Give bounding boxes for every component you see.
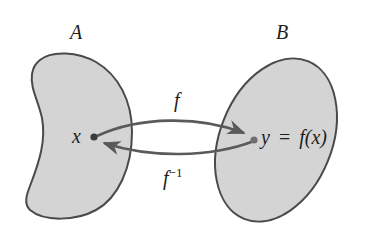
point-x-label: x [72,126,81,146]
arrow-f-inverse-superscript: −1 [169,165,183,180]
point-y [250,136,257,143]
point-y-lhs: y [261,126,270,148]
set-a-label: A [70,22,82,42]
arrow-f-inverse-label: f−1 [163,166,182,188]
point-x-label-text: x [72,125,81,147]
arrow-f-label: f [174,90,180,110]
point-y-rhs: f(x) [299,126,327,148]
point-y-eq: = [279,126,290,148]
set-b-label: B [276,22,288,42]
set-a-label-text: A [70,21,82,43]
arrow-f-label-text: f [174,89,180,111]
point-x [90,133,97,140]
function-inverse-diagram [0,0,378,236]
point-y-label: y = f(x) [261,127,327,147]
set-b-label-text: B [276,21,288,43]
